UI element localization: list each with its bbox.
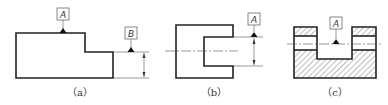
figure-a: A B （a） [16, 8, 149, 98]
arrowhead-icon [253, 39, 256, 44]
datum-letter: A [250, 15, 257, 25]
datum-triangle-icon [60, 28, 67, 33]
datum-triangle-icon [251, 32, 258, 37]
caption-a: （a） [67, 87, 93, 98]
arrowhead-icon [143, 53, 146, 58]
datum-triangle-icon [128, 47, 135, 52]
caption-c: （c） [322, 87, 348, 98]
hatched-section [352, 27, 376, 36]
datum-letter: A [332, 19, 339, 29]
datum-b-feature-a: B [125, 27, 137, 52]
hatched-section [294, 27, 317, 36]
arrowhead-icon [253, 60, 256, 65]
part-outline-b [176, 25, 233, 78]
datum-triangle-icon [333, 39, 340, 44]
arrowhead-icon [143, 72, 146, 77]
datum-diagram: A B （a） A [0, 0, 388, 105]
figure-b: A （b） [165, 13, 263, 98]
caption-b: （b） [201, 87, 227, 98]
datum-letter: B [128, 29, 134, 39]
figure-c: A （c） [287, 17, 383, 98]
datum-letter: A [59, 10, 66, 20]
datum-a-feature-a: A [57, 8, 69, 33]
hatched-section [294, 50, 376, 78]
datum-a-feature-c: A [330, 17, 342, 44]
datum-a-feature-b: A [248, 13, 260, 37]
part-outline-a [16, 33, 113, 78]
